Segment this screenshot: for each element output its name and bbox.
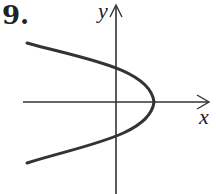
graph: 9. x y — [0, 0, 216, 194]
parabola-curve — [27, 43, 154, 163]
problem-number: 9. — [2, 0, 29, 30]
x-axis-label: x — [198, 104, 209, 129]
y-axis-label: y — [96, 0, 108, 23]
